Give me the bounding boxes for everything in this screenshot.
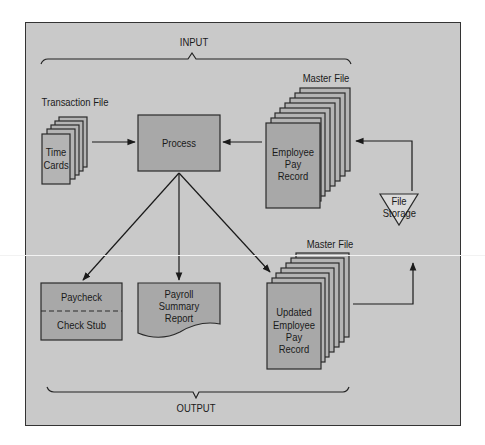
time-cards-label-line2: Cards	[43, 159, 68, 171]
time-cards-label-line1: Time	[43, 146, 68, 158]
paycheck-label: Paycheck	[45, 291, 118, 303]
scan-artifact-line	[0, 255, 485, 256]
check-stub-label: Check Stub	[45, 319, 118, 331]
output-brace	[47, 387, 349, 398]
edge-process-to-paycheck	[83, 173, 179, 280]
file-storage-line2: Storage	[383, 207, 415, 219]
report-line1: Payroll	[142, 288, 216, 300]
employee-pay-record-line3: Record	[269, 170, 318, 182]
employee-pay-record-line1: Employee	[269, 146, 318, 158]
output-label: OUTPUT	[173, 402, 220, 414]
updated-record-line2: Employee	[270, 319, 319, 331]
edge-updated-record-to-storage	[353, 263, 413, 304]
employee-pay-record-line2: Pay	[269, 158, 318, 170]
updated-record-line3: Pay	[270, 331, 319, 343]
input-label: INPUT	[174, 36, 214, 48]
report-line2: Summary	[142, 300, 216, 312]
process-label: Process	[142, 137, 216, 149]
master-file-bottom-label: Master File	[303, 238, 357, 250]
updated-record-line1: Updated	[270, 306, 319, 318]
edge-storage-to-payrecord	[356, 141, 412, 191]
report-line3: Report	[142, 312, 216, 324]
master-file-top-label: Master File	[299, 72, 353, 84]
file-storage-line1: File	[386, 195, 413, 207]
updated-record-line4: Record	[270, 343, 319, 355]
diagram-canvas	[0, 0, 485, 445]
edge-process-to-updated-record	[179, 173, 270, 272]
transaction-file-label: Transaction File	[35, 96, 116, 108]
input-brace	[41, 53, 351, 64]
